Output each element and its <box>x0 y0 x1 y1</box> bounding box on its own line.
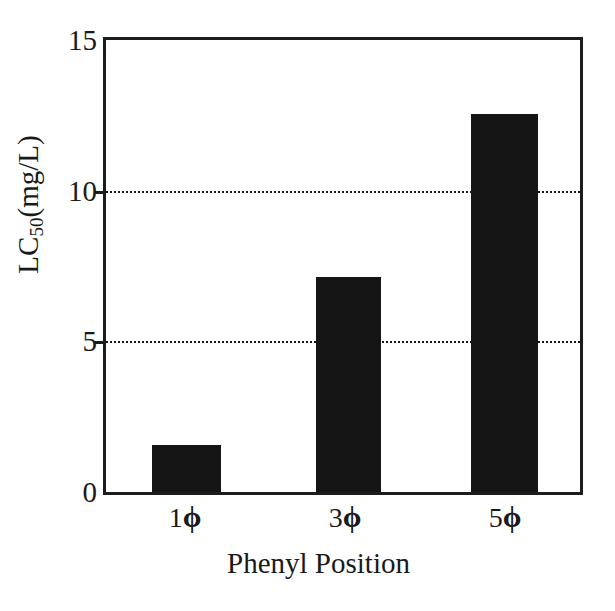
plot-area: 051015 <box>103 37 583 495</box>
x-axis-title-text: Phenyl Position <box>227 548 410 580</box>
y-axis-title: LC50(mg/L) <box>14 85 43 325</box>
x-tick-label-number-3: 5 <box>489 502 503 533</box>
x-tick-label-number-1: 1 <box>169 502 183 533</box>
bar-3 <box>471 114 537 492</box>
phi-icon-1: ϕ <box>183 500 202 533</box>
y-tick-label-15: 15 <box>68 26 97 55</box>
bar-chart-figure: LC50(mg/L) 051015 1ϕ3ϕ5ϕ Phenyl Position <box>0 0 615 611</box>
y-axis-title-units: (mg/L) <box>12 135 44 217</box>
bar-2 <box>316 277 381 492</box>
x-tick-label-3: 5ϕ <box>489 502 522 532</box>
x-axis-title: Phenyl Position <box>0 548 615 580</box>
phi-icon-3: ϕ <box>503 500 522 533</box>
x-tick-label-1: 1ϕ <box>169 502 202 532</box>
x-tick-label-number-2: 3 <box>329 502 343 533</box>
y-tick-label-0: 0 <box>83 478 98 507</box>
y-tick-label-5: 5 <box>83 327 98 356</box>
phi-icon-2: ϕ <box>343 500 362 533</box>
x-tick-label-2: 3ϕ <box>329 502 362 532</box>
plot-canvas <box>106 40 580 492</box>
bar-1 <box>152 445 220 492</box>
y-axis-title-subscript: 50 <box>25 217 46 236</box>
y-tick-label-10: 10 <box>68 176 97 205</box>
y-axis-title-base: LC <box>12 237 44 274</box>
